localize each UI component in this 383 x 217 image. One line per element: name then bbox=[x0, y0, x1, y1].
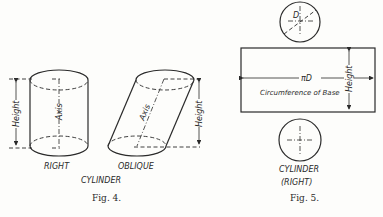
cylinder-diagrams: Axis Height RIGHT Axis Height OBLIQUE CY… bbox=[0, 0, 383, 217]
circumference-label: Circumference of Base bbox=[260, 89, 340, 97]
fig5-title-line2: (RIGHT) bbox=[281, 178, 312, 187]
fig4-caption: Fig. 4. bbox=[92, 193, 121, 203]
diameter-label: D bbox=[293, 11, 299, 20]
right-height-label: Height bbox=[12, 100, 21, 127]
rect-height-label: Height bbox=[345, 65, 354, 92]
right-label: RIGHT bbox=[44, 162, 70, 171]
right-cylinder: Axis Height RIGHT bbox=[9, 70, 88, 171]
fig4-title: CYLINDER bbox=[81, 176, 121, 185]
oblique-axis-label: Axis bbox=[137, 103, 152, 123]
right-axis-label: Axis bbox=[55, 103, 64, 121]
top-base-circle: D bbox=[280, 2, 320, 42]
circumference-length-label: πD bbox=[301, 74, 312, 83]
fig5-caption: Fig. 5. bbox=[290, 193, 319, 203]
development-rectangle: πD Circumference of Base Height bbox=[241, 48, 375, 112]
oblique-cylinder: Axis Height OBLIQUE bbox=[108, 70, 204, 171]
fig5-title-line1: CYLINDER bbox=[279, 165, 319, 174]
oblique-height-label: Height bbox=[195, 100, 204, 127]
bottom-base-circle bbox=[279, 119, 321, 161]
oblique-label: OBLIQUE bbox=[118, 162, 155, 171]
